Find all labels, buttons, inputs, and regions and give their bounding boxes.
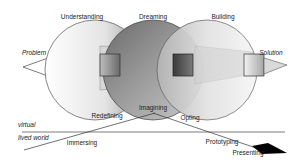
solution-triangle bbox=[264, 58, 287, 74]
label-opting: Opting bbox=[180, 114, 200, 122]
label-dreaming: Dreaming bbox=[139, 13, 168, 21]
label-lived-world: lived world bbox=[18, 134, 49, 141]
label-building: Building bbox=[211, 13, 235, 21]
label-presenting: Presenting bbox=[232, 149, 263, 157]
label-problem: Problem bbox=[22, 49, 47, 56]
square-understanding bbox=[100, 54, 120, 76]
label-understanding: Understanding bbox=[61, 13, 104, 21]
square-dreaming bbox=[173, 54, 193, 76]
label-prototyping: Prototyping bbox=[206, 138, 239, 146]
label-immersing: Immersing bbox=[67, 139, 98, 147]
label-virtual: virtual bbox=[18, 121, 36, 128]
problem-triangle bbox=[23, 58, 48, 76]
design-process-diagram: Understanding Dreaming Building Problem … bbox=[0, 0, 304, 162]
label-redefining: Redefining bbox=[91, 112, 122, 120]
label-solution: Solution bbox=[259, 49, 283, 56]
label-imagining: Imagining bbox=[139, 104, 168, 112]
square-building bbox=[244, 54, 264, 76]
